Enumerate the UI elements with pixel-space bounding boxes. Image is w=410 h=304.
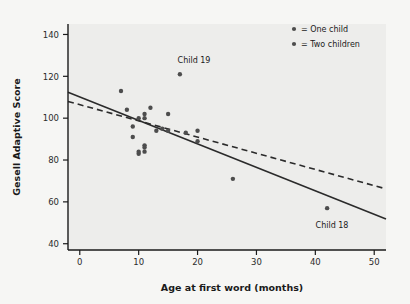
- data-point: [136, 149, 140, 153]
- data-point: [125, 108, 129, 112]
- data-point: [325, 206, 329, 210]
- data-point: [195, 139, 199, 143]
- data-point: [195, 129, 199, 133]
- x-tick-label: 10: [133, 257, 144, 267]
- data-point: [131, 135, 135, 139]
- annotation-child-19: Child 19: [178, 56, 211, 65]
- y-tick-label: 120: [43, 72, 59, 82]
- x-tick-label: 30: [251, 257, 262, 267]
- data-point: [142, 149, 146, 153]
- y-tick-label: 140: [43, 30, 59, 40]
- legend-label-one-child: = One child: [301, 25, 348, 34]
- x-tick-label: 50: [369, 257, 380, 267]
- scatter-plot: 406080100120140 01020304050 Gesell Adapt…: [0, 0, 410, 304]
- x-tick-label: 40: [310, 257, 321, 267]
- data-point: [131, 124, 135, 128]
- data-point: [142, 112, 146, 116]
- data-point: [231, 177, 235, 181]
- y-tick-label: 80: [48, 155, 59, 165]
- data-point: [178, 72, 182, 76]
- x-tick-label: 20: [192, 257, 203, 267]
- data-point: [184, 131, 188, 135]
- x-tick-label: 0: [77, 257, 82, 267]
- data-point: [154, 129, 158, 133]
- data-point: [166, 112, 170, 116]
- data-point: [119, 89, 123, 93]
- chart-figure: 406080100120140 01020304050 Gesell Adapt…: [0, 0, 410, 304]
- y-tick-label: 40: [48, 239, 59, 249]
- legend-label-two-children: = Two children: [301, 40, 360, 49]
- y-tick-label: 100: [43, 113, 59, 123]
- legend-marker-two-children-icon: [292, 42, 296, 46]
- annotation-child-18: Child 18: [316, 221, 349, 230]
- legend-marker-one-child-icon: [292, 27, 296, 31]
- data-point: [166, 129, 170, 133]
- y-tick-label: 60: [48, 197, 59, 207]
- data-point: [142, 145, 146, 149]
- y-axis-title: Gesell Adaptive Score: [11, 78, 22, 195]
- x-axis-title: Age at first word (months): [161, 282, 303, 293]
- plot-area-background: [68, 24, 386, 250]
- data-point: [136, 116, 140, 120]
- data-point: [148, 106, 152, 110]
- data-point: [160, 126, 164, 130]
- data-point: [142, 116, 146, 120]
